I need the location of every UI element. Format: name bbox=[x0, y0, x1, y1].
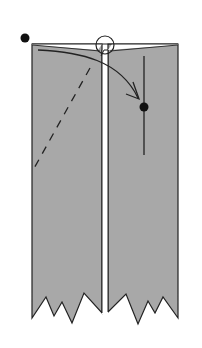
end-point-dot bbox=[140, 103, 149, 112]
center-gap bbox=[102, 50, 108, 314]
paper-strip-right bbox=[108, 44, 178, 324]
folding-diagram bbox=[0, 0, 202, 348]
start-point-dot bbox=[21, 34, 30, 43]
paper-strip-left bbox=[32, 44, 102, 323]
diagram-canvas bbox=[0, 0, 202, 348]
